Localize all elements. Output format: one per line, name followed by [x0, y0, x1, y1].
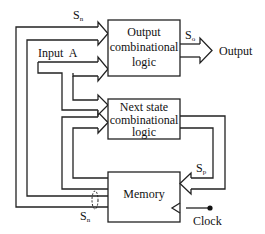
arrow-into-memory-sp: [180, 173, 191, 194]
sp-label: Sp: [196, 161, 207, 176]
sp-feedback: [180, 116, 225, 194]
arrow-into-next-state-input: [98, 95, 108, 115]
output-logic-line2: combinational: [110, 40, 179, 54]
next-state-line1: Next state: [120, 100, 168, 114]
output-logic-line1: Output: [127, 25, 161, 39]
output-logic-line3: logic: [132, 55, 156, 69]
arrow-into-output-logic-input: [98, 57, 108, 81]
so-label: So: [185, 28, 196, 43]
memory-label: Memory: [123, 187, 164, 201]
fsm-block-diagram: Sn Input A Output combinational logic So…: [0, 0, 265, 234]
input-a-label: Input A: [38, 46, 78, 60]
arrow-into-next-state-sn: [98, 112, 108, 133]
sn-bus-bundle-marker: [92, 191, 98, 209]
input-a-bus: [38, 57, 108, 115]
sn-feedback-inner: [62, 112, 108, 189]
clock-terminal-dot: [207, 205, 212, 210]
clock-label: Clock: [193, 214, 222, 228]
output-label: Output: [219, 44, 253, 58]
sn-top-label: Sn: [73, 8, 84, 23]
arrow-into-output-logic-sn: [98, 22, 108, 45]
sn-bottom-label: Sn: [80, 209, 91, 224]
next-state-line3: logic: [132, 125, 156, 139]
